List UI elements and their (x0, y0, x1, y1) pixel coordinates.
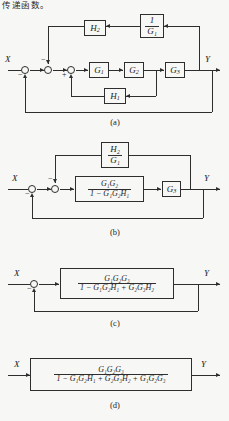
c-block-combined-tf: G₁G₂G₃ 1 − G₁G₂H₁ + G₂G₃H₂ (60, 268, 174, 299)
c-output-label: Y (204, 268, 209, 278)
a-arrow-output (216, 68, 220, 72)
c-block-combined-tf-num: G₁G₂G₃ (78, 275, 156, 283)
a-block-G2: G2 (124, 62, 144, 78)
c-arrow-into-tf (55, 282, 59, 286)
c-line-outer-fb (34, 311, 198, 312)
b-line-out-down (203, 189, 204, 218)
c-input-label: X (14, 268, 20, 278)
b-arrow-into-inner-tf (70, 187, 74, 191)
d-block-overall-tf-num: G₁G₂G₃ (54, 366, 167, 374)
a-line-outer-fb (25, 112, 212, 113)
caption-a: (a) (95, 117, 135, 127)
a-arrow-into-g1 (84, 68, 88, 72)
b-sum-2 (51, 185, 59, 193)
a-block-G1-label: G1 (94, 65, 104, 75)
a-line-g2out-down (156, 70, 157, 96)
a-arrow-into-invG1 (164, 24, 168, 28)
a-arrow-into-sum2-top (46, 60, 50, 64)
b-block-H2-over-G1-den: G₁ (108, 155, 122, 165)
b-line-tap-to-H2G1 (129, 155, 190, 156)
a-block-one-over-G1-fraction: 1 G₁ (145, 16, 159, 36)
b-input-label: X (12, 173, 18, 183)
a-block-H1-label: H1 (110, 91, 120, 101)
c-line-blk-out (174, 284, 220, 285)
a-arrow-into-g3 (160, 68, 164, 72)
a-line-H1-up-to-sum3 (71, 78, 72, 96)
c-line-out-down (198, 284, 199, 311)
a-line-g3-out (185, 70, 220, 71)
a-line-out-tap-up (199, 26, 200, 70)
a-block-G1: G1 (89, 62, 109, 78)
b-line-outer-fb-up (32, 197, 33, 218)
a-line-H2-out (48, 26, 84, 27)
a-block-G2-label: G2 (129, 65, 139, 75)
b-line-g3-out (181, 189, 220, 190)
a-block-H2: H2 (84, 20, 106, 36)
b-block-inner-loop-tf: G₁G₂ 1 − G₁G₂H₁ (75, 176, 144, 202)
a-block-H1: H1 (104, 88, 126, 104)
d-block-overall-tf-den: 1 − G₁G₂H₁ + G₂G₃H₂ + G₁G₂G₃ (54, 374, 167, 383)
a-sum-3 (67, 66, 75, 74)
b-block-G3-label: G3 (167, 184, 177, 194)
a-sum3-sign-plus: + (62, 71, 67, 79)
caption-d: (d) (95, 400, 135, 410)
b-block-H2-over-G1: H₂ G₁ (101, 142, 129, 168)
a-line-outer-fb-up (25, 78, 26, 112)
a-line-H2-down-to-sum2 (48, 26, 49, 64)
a-input-label: X (5, 54, 11, 64)
c-block-combined-tf-fraction: G₁G₂G₃ 1 − G₁G₂H₁ + G₂G₃H₂ (78, 275, 156, 293)
b-block-H2-over-G1-fraction: H₂ G₁ (108, 145, 122, 165)
a-arrow-into-H1 (126, 94, 130, 98)
b-output-label: Y (204, 173, 209, 183)
a-block-G3-label: G3 (170, 65, 180, 75)
a-block-one-over-G1-num: 1 (145, 16, 159, 25)
d-input-label: X (14, 359, 20, 369)
a-block-one-over-G1: 1 G₁ (140, 14, 164, 38)
b-line-out-tap-up (190, 155, 191, 189)
scanned-figure-page: 传递函数。 G1 G2 G3 X Y − (0, 0, 229, 421)
b-arrow-output (216, 187, 220, 191)
a-line-out-down (212, 70, 213, 112)
a-line-invG1-to-H2 (106, 26, 140, 27)
caption-c: (c) (95, 318, 135, 328)
a-block-G3: G3 (165, 62, 185, 78)
c-arrow-output (216, 282, 220, 286)
b-block-inner-loop-tf-fraction: G₁G₂ 1 − G₁G₂H₁ (88, 180, 131, 198)
c-block-combined-tf-den: 1 − G₁G₂H₁ + G₂G₃H₂ (78, 283, 156, 292)
a-line-H1-out-left (71, 96, 104, 97)
d-arrow-output (216, 373, 220, 377)
a-arrow-into-g2 (119, 68, 123, 72)
b-block-H2-over-G1-num: H₂ (108, 145, 122, 154)
d-output-label: Y (201, 359, 206, 369)
b-arrow-into-sum1 (30, 193, 34, 197)
b-block-inner-loop-tf-num: G₁G₂ (88, 180, 131, 188)
b-arrow-into-sum2-top (53, 179, 57, 183)
b-block-inner-loop-tf-den: 1 − G₁G₂H₁ (88, 189, 131, 198)
a-arrow-into-sum1 (23, 74, 27, 78)
a-line-to-H1-right (126, 96, 156, 97)
a-block-H2-label: H2 (90, 23, 100, 33)
d-block-overall-tf: G₁G₂G₃ 1 − G₁G₂H₁ + G₂G₃H₂ + G₁G₂G₃ (30, 358, 192, 391)
d-block-overall-tf-fraction: G₁G₂G₃ 1 − G₁G₂H₁ + G₂G₃H₂ + G₁G₂G₃ (54, 366, 167, 384)
b-block-G3: G3 (162, 181, 181, 197)
c-arrow-into-sum1 (32, 288, 36, 292)
b-line-outer-fb (32, 218, 203, 219)
a-sum-2 (44, 66, 52, 74)
c-line-outer-fb-up (34, 292, 35, 311)
caption-b: (b) (95, 227, 135, 237)
a-arrow-into-H2 (106, 24, 110, 28)
a-line-tap-to-invG1 (164, 26, 199, 27)
a-arrow-into-sum3-bottom (69, 74, 73, 78)
b-arrow-into-g3 (157, 187, 161, 191)
page-header-text: 传递函数。 (2, 0, 50, 10)
b-line-H2G1-out (55, 155, 101, 156)
a-output-label: Y (205, 54, 210, 64)
a-block-one-over-G1-den: G₁ (145, 26, 159, 36)
